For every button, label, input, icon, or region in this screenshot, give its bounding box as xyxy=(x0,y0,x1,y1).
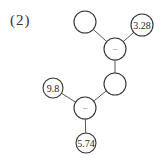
number-node-5-74-text: 5.74 xyxy=(77,138,95,149)
blank-node-middle[interactable] xyxy=(104,73,126,95)
number-node-9-8-text: 9.8 xyxy=(47,83,60,94)
minus-icon: − xyxy=(112,44,117,54)
number-node-3-28: 3.28 xyxy=(131,14,153,36)
minus-operator-node-top: − xyxy=(104,38,126,60)
minus-icon: − xyxy=(82,103,87,113)
blank-node-top[interactable] xyxy=(74,11,96,33)
number-node-5-74: 5.74 xyxy=(76,133,96,153)
number-node-9-8: 9.8 xyxy=(43,78,63,98)
minus-operator-node-bottom: − xyxy=(74,97,96,119)
number-node-3-28-text: 3.28 xyxy=(133,20,151,31)
operation-tree-diagram: 3.28 − 9.8 − 5.74 xyxy=(0,0,162,161)
